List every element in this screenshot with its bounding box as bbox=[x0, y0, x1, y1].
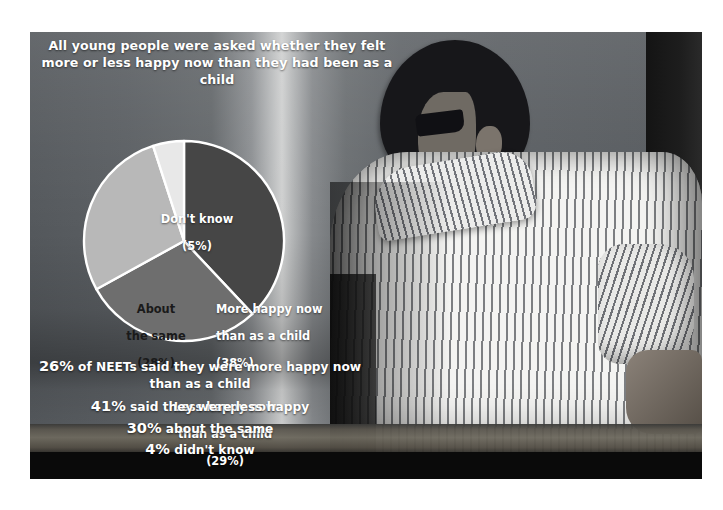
stat-percent: 4% bbox=[145, 440, 170, 457]
stat-line: 26% of NEETs said they were more happy n… bbox=[36, 358, 364, 392]
stat-line: 4% didn't know bbox=[36, 441, 364, 459]
stat-text: said they were less happy bbox=[126, 400, 309, 414]
stat-text: didn't know bbox=[170, 443, 255, 457]
person-forearm bbox=[626, 350, 702, 434]
infographic-page: All young people were asked whether they… bbox=[0, 0, 723, 510]
stat-line: 41% said they were less happy bbox=[36, 398, 364, 416]
neet-stats-block: 26% of NEETs said they were more happy n… bbox=[36, 358, 364, 463]
pie-label-more-happy-line2: than as a child bbox=[216, 329, 310, 343]
page-title: All young people were asked whether they… bbox=[38, 37, 396, 88]
person-photo bbox=[330, 32, 702, 479]
photo-canvas: All young people were asked whether they… bbox=[30, 32, 702, 479]
stat-percent: 30% bbox=[127, 419, 162, 436]
pie-label-dont-know-pct: (5%) bbox=[182, 239, 212, 253]
pie-chart: Don't know (5%) More happy now than as a… bbox=[80, 137, 288, 345]
shirt-sleeve bbox=[598, 244, 694, 364]
pie-label-dont-know: Don't know (5%) bbox=[142, 199, 252, 253]
stat-percent: 41% bbox=[91, 397, 126, 414]
stat-percent: 26% bbox=[39, 357, 74, 374]
pie-label-more-happy-line1: More happy now bbox=[216, 302, 322, 316]
stat-line: 30% about the same bbox=[36, 420, 364, 438]
stat-text: of NEETs said they were more happy now t… bbox=[74, 360, 361, 391]
pie-label-about-same-line1: About bbox=[137, 302, 175, 316]
pie-label-about-same-line2: the same bbox=[126, 329, 185, 343]
stat-text: about the same bbox=[162, 422, 274, 436]
pie-label-dont-know-text: Don't know bbox=[161, 212, 233, 226]
